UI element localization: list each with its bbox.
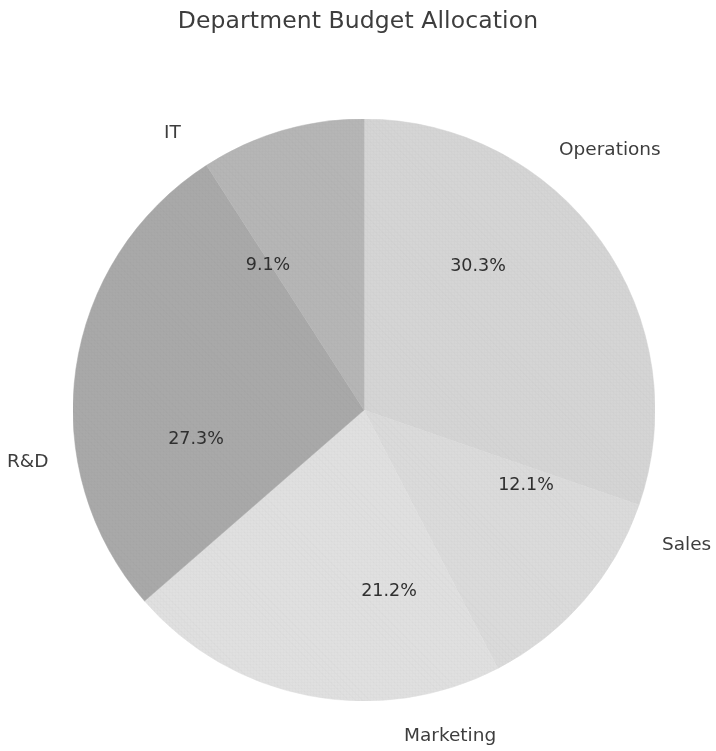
slice-value-rd: 27.3% (168, 428, 224, 448)
slice-value-operations: 30.3% (450, 255, 506, 275)
chart-title: Department Budget Allocation (0, 6, 716, 34)
pie-chart-figure: Department Budget Allocation Conclusion … (0, 0, 716, 751)
pie-plot-area (73, 119, 655, 701)
slice-label-sales: Sales (662, 533, 711, 554)
slice-label-rd: R&D (7, 450, 49, 471)
pie-wedge-group (73, 119, 655, 701)
slice-value-it: 9.1% (246, 254, 290, 274)
slice-label-it: IT (164, 121, 181, 142)
pie-svg (73, 119, 655, 701)
slice-value-sales: 12.1% (498, 474, 554, 494)
slice-value-marketing: 21.2% (361, 580, 417, 600)
slice-label-operations: Operations (559, 138, 661, 159)
slice-label-marketing: Marketing (404, 724, 496, 745)
